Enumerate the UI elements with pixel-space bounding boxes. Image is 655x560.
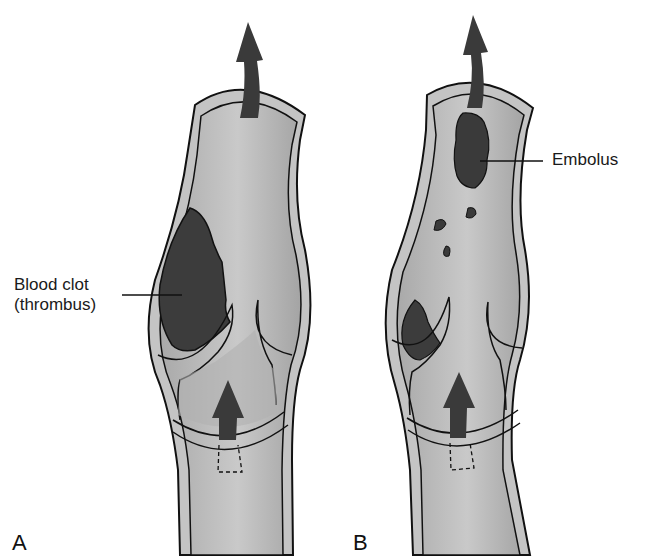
vein-thrombus-embolus-diagram (0, 0, 655, 560)
thrombus-label-line1: Blood clot (14, 275, 96, 295)
thrombus-label: Blood clot (thrombus) (14, 275, 96, 315)
thrombus-label-line2: (thrombus) (14, 295, 96, 315)
panel-a-vein (149, 22, 311, 555)
panel-letter-b: B (353, 530, 368, 556)
embolus-fragment (466, 208, 476, 218)
panel-b-vein (386, 15, 533, 555)
embolus-label: Embolus (552, 150, 618, 170)
embolus (454, 113, 489, 188)
panel-letter-a: A (12, 530, 27, 556)
